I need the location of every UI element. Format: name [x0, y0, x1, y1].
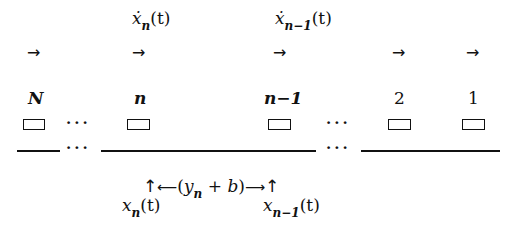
velocity-symbol: ẋ	[275, 8, 285, 28]
velocity-subscript: n−1	[285, 19, 312, 33]
velocity-label-n-minus-1: ẋn−1(t)	[275, 8, 332, 28]
velocity-arg: (t)	[150, 8, 170, 28]
vehicle-n-minus-1-box	[268, 119, 291, 130]
velocity-arg: (t)	[312, 8, 332, 28]
left-arrow-icon: ⟵	[157, 179, 177, 195]
vehicle-n-box	[127, 119, 150, 130]
road-segment	[17, 150, 60, 152]
ellipsis: ···	[326, 114, 351, 132]
vehicle-length-symbol: b	[227, 176, 238, 196]
position-label-n: xn(t)	[122, 195, 160, 215]
position-arg: (t)	[300, 195, 320, 215]
ellipsis: ···	[66, 114, 91, 132]
position-label-n-minus-1: xn−1(t)	[263, 195, 320, 215]
spacing-subscript: n	[194, 187, 203, 201]
position-arg: (t)	[140, 195, 160, 215]
direction-arrow-icon: →	[466, 43, 479, 62]
position-subscript: n	[132, 206, 141, 220]
road-ellipsis: ···	[66, 139, 91, 157]
road-segment	[361, 150, 500, 152]
vehicle-label-1: 1	[468, 88, 479, 108]
position-subscript: n−1	[273, 206, 300, 220]
up-arrow-icon: ↑	[143, 176, 157, 196]
direction-arrow-icon: →	[392, 43, 405, 62]
vehicle-1-box	[462, 119, 485, 130]
velocity-symbol: ẋ	[132, 8, 142, 28]
vehicle-label-n: n	[134, 88, 146, 108]
direction-arrow-icon: →	[132, 43, 145, 62]
right-arrow-icon: ⟶	[245, 179, 265, 195]
vehicle-label-n-minus-1: n−1	[264, 88, 302, 108]
velocity-subscript: n	[142, 19, 151, 33]
paren-close: )	[238, 176, 245, 196]
direction-arrow-icon: →	[27, 43, 40, 62]
position-symbol: x	[263, 195, 273, 215]
vehicle-2-box	[388, 119, 411, 130]
road-segment	[101, 150, 316, 152]
headway-annotation: ↑⟵(yn + b)⟶↑	[143, 176, 279, 196]
up-arrow-icon: ↑	[265, 176, 279, 196]
vehicle-label-N: N	[28, 88, 44, 108]
position-symbol: x	[122, 195, 132, 215]
road-ellipsis: ···	[326, 139, 351, 157]
velocity-label-n: ẋn(t)	[132, 8, 170, 28]
vehicle-N-box	[23, 119, 45, 130]
vehicle-label-2: 2	[394, 88, 405, 108]
spacing-symbol: y	[184, 176, 194, 196]
plus-sign: +	[208, 176, 222, 196]
direction-arrow-icon: →	[273, 43, 286, 62]
paren-open: (	[177, 176, 184, 196]
